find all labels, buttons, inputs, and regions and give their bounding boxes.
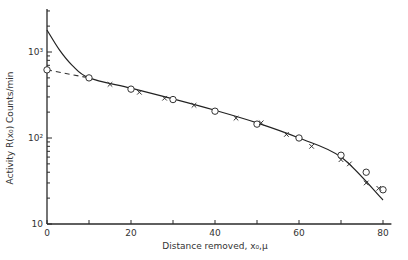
y-axis-label: Activity R(x₀) Counts/min	[5, 71, 15, 184]
circle-point	[86, 75, 92, 81]
extrapolation-line	[47, 70, 89, 78]
x-tick-label: 20	[125, 228, 137, 238]
x-tick-label: 80	[377, 228, 389, 238]
x-tick-label: 60	[293, 228, 305, 238]
fitted-curve	[47, 30, 383, 200]
y-tick-label: 10	[32, 219, 44, 229]
circle-point	[170, 96, 176, 102]
circle-point	[128, 86, 134, 92]
y-tick-label: 10³	[28, 47, 43, 57]
chart: 0204060801010²10³ Distance removed, x₀,μ…	[0, 0, 408, 260]
cross-point	[347, 162, 352, 167]
circle-point	[212, 108, 218, 114]
y-tick-label: 10²	[28, 133, 43, 143]
marks	[44, 30, 386, 200]
x-tick-label: 0	[44, 228, 50, 238]
x-tick-label: 40	[209, 228, 221, 238]
cross-point	[309, 144, 314, 149]
x-axis-label: Distance removed, x₀,μ	[162, 241, 268, 251]
circle-point	[296, 135, 302, 141]
circle-point	[44, 67, 50, 73]
axes: 0204060801010²10³	[28, 9, 391, 238]
circle-point	[363, 169, 369, 175]
